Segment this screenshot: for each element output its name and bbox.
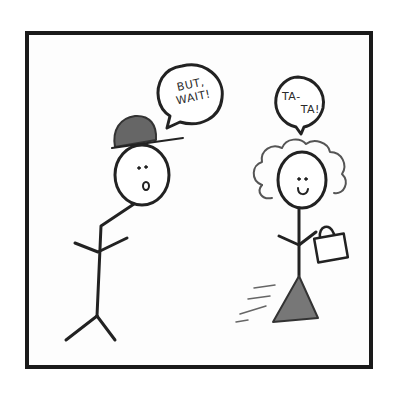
speech-line: TA! — [278, 103, 322, 116]
right-stick-figure — [236, 139, 348, 322]
comic-artwork — [0, 0, 400, 400]
handbag-icon — [314, 227, 348, 263]
right-speech-text: TA- TA! — [278, 90, 322, 116]
speech-line: TA- — [278, 90, 322, 103]
motion-lines — [236, 285, 275, 322]
left-stick-figure — [66, 116, 183, 340]
